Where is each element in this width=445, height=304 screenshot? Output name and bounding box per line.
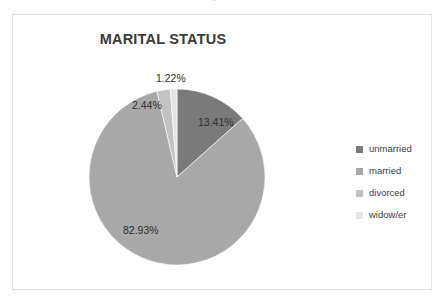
legend-label: divorced [369, 188, 405, 198]
pie-label-unmarried: 13.41% [198, 116, 234, 128]
pie-label-divorced: 2.44% [132, 99, 162, 111]
legend-swatch-icon [356, 168, 363, 175]
legend-label: widow/er [369, 210, 407, 220]
legend-item-unmarried[interactable]: unmarried [356, 138, 445, 160]
pie-chart-svg [89, 89, 265, 265]
cutoff-text: and the text was cut off above the chart… [0, 0, 217, 1]
pie-chart [89, 89, 265, 265]
legend-swatch-icon [356, 146, 363, 153]
chart-frame: MARITAL STATUS 1.22% 2.44% 13.41% 82.93%… [12, 14, 432, 290]
legend-swatch-icon [356, 212, 363, 219]
legend-item-divorced[interactable]: divorced [356, 182, 445, 204]
legend-item-widower[interactable]: widow/er [356, 204, 445, 226]
top-cutoff-text-artifact: and the text was cut off above the chart… [0, 0, 445, 7]
legend-label: unmarried [369, 144, 412, 154]
pie-label-married: 82.93% [123, 224, 159, 236]
legend-swatch-icon [356, 190, 363, 197]
chart-title: MARITAL STATUS [13, 31, 313, 47]
legend-item-married[interactable]: married [356, 160, 445, 182]
pie-label-widower: 1.22% [156, 72, 186, 84]
legend-label: married [369, 166, 401, 176]
pie-slices [89, 89, 265, 265]
chart-legend: unmarried married divorced widow/er [356, 138, 445, 226]
